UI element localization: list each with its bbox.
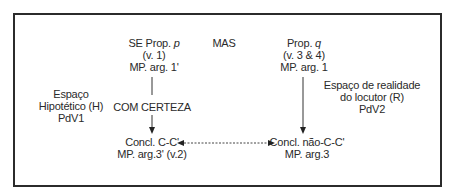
arrow-right-head-icon (268, 140, 275, 146)
arrow-left-head-icon (177, 140, 184, 146)
arrow-q-head-icon (300, 127, 306, 134)
arrows-layer (0, 0, 454, 196)
arrow-p-head-icon (149, 127, 155, 134)
